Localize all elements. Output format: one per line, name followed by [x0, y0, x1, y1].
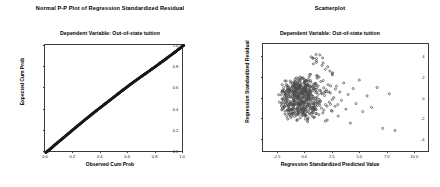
scatterplot-data-points	[263, 44, 430, 153]
ppplot-xticklabel-1: 0.2	[70, 154, 76, 159]
ppplot-title: Normal P-P Plot of Regression Standardiz…	[0, 4, 220, 12]
figure-normal-pp-plot: Normal P-P Plot of Regression Standardiz…	[0, 0, 220, 187]
ppplot-xticklabel-3: 0.6	[124, 154, 130, 159]
ppplot-xticklabel-5: 1.0	[179, 154, 185, 159]
ppplot-y-axis-title: Expected Cum Prob	[19, 52, 26, 112]
ppplot-subtitle: Dependent Variable: Out-of-state tuition	[0, 29, 220, 37]
ppplot-xticklabel-2: 0.4	[97, 154, 103, 159]
scatter-xticklabel-5: 10.0	[410, 154, 418, 159]
scatterplot-subtitle: Dependent Variable: Out-of-state tuition	[220, 29, 440, 37]
scatterplot-title: Scatterplot	[220, 4, 440, 12]
ppplot-data-points	[45, 45, 184, 153]
scatterplot-plot-area: -2.5 0.0 2.5 5.0 7.5 10.0 4 2 0 -2 -4	[262, 43, 429, 152]
scatter-xticklabel-3: 5.0	[356, 154, 362, 159]
ppplot-xticklabel-0: 0.0	[42, 154, 48, 159]
scatter-xticklabel-1: 0.0	[301, 154, 307, 159]
ppplot-x-axis-title: Observed Cum Prob	[0, 161, 220, 168]
ppplot-xticklabel-4: 0.8	[152, 154, 158, 159]
scatterplot-y-axis-title: Regression Standardized Residual	[244, 39, 251, 125]
scatter-xticklabel-2: 2.5	[329, 154, 335, 159]
scatterplot-x-axis-title: Regression Standardized Predicted Value	[220, 161, 440, 168]
ppplot-plot-area: 0.0 0.2 0.4 0.6 0.8 1.0 1.0 0.8 0.6 0.4 …	[44, 44, 183, 152]
scatter-xticklabel-0: -2.5	[273, 154, 280, 159]
figure-scatterplot: Scatterplot Dependent Variable: Out-of-s…	[220, 0, 440, 187]
scatter-xticklabel-4: 7.5	[384, 154, 390, 159]
